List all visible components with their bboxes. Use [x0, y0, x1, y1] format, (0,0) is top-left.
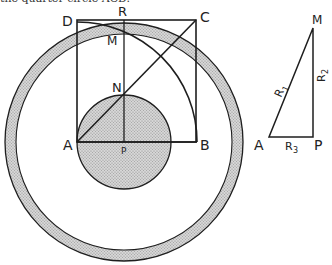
label-a: A	[63, 137, 73, 153]
triangle-label-r2: R 2	[315, 69, 330, 82]
triangle-label-m: M	[312, 13, 322, 27]
svg-text:R: R	[315, 74, 328, 82]
triangle-label-a: A	[254, 137, 264, 153]
label-r: R	[118, 4, 127, 19]
triangle-label-p: P	[314, 137, 322, 153]
svg-text:R: R	[285, 140, 293, 153]
diagram-canvas: D R C M N A P B M A P R 1 R 2 R 3	[0, 0, 332, 265]
svg-text:3: 3	[293, 146, 298, 155]
triangle-label-r3: R 3	[285, 140, 298, 155]
label-p: P	[121, 146, 127, 156]
label-n: N	[112, 80, 122, 95]
svg-text:2: 2	[321, 69, 330, 74]
label-d: D	[62, 13, 73, 29]
right-triangle: M A P R 1 R 2 R 3	[254, 13, 330, 155]
triangle-label-r1: R 1	[272, 82, 291, 100]
label-b: B	[200, 137, 210, 153]
label-m: M	[107, 34, 117, 48]
geometry-diagram: the quarter circle ACD.	[0, 0, 332, 265]
caption-text: the quarter circle ACD.	[0, 0, 332, 4]
label-c: C	[200, 9, 210, 25]
